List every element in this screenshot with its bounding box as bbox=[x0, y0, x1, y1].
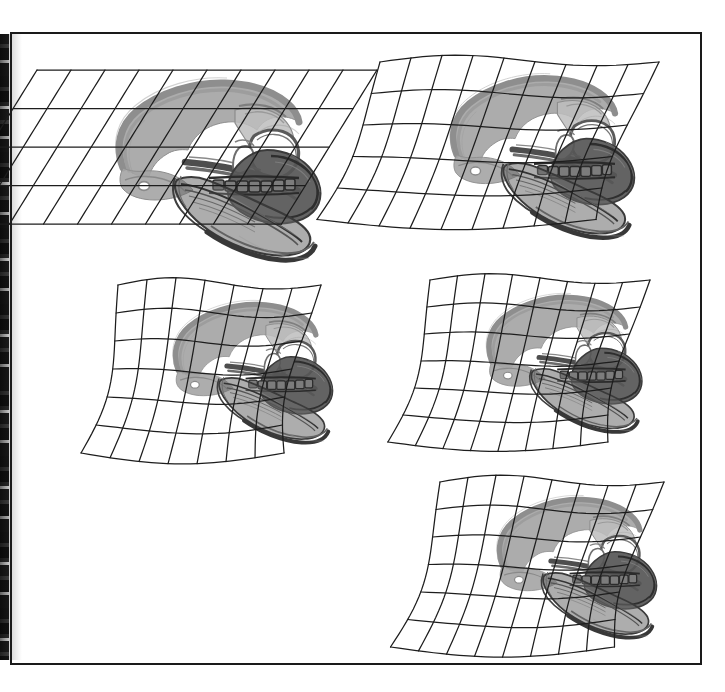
panel-5 bbox=[391, 475, 665, 657]
panel-3 bbox=[81, 278, 333, 464]
grid-column-line bbox=[379, 55, 442, 226]
figure-plate bbox=[0, 0, 725, 692]
panel-4 bbox=[388, 274, 650, 452]
grid-column-line bbox=[81, 285, 118, 453]
grid-row-line bbox=[380, 55, 659, 66]
transformation-grid-plate bbox=[0, 0, 725, 692]
grid-column-line bbox=[317, 62, 380, 220]
skull-outline bbox=[497, 495, 657, 637]
grid-column-line bbox=[348, 58, 411, 223]
grid-row-line bbox=[118, 278, 321, 289]
panel-1 bbox=[0, 70, 377, 260]
panels-layer bbox=[0, 55, 664, 657]
panel-2 bbox=[317, 55, 659, 238]
